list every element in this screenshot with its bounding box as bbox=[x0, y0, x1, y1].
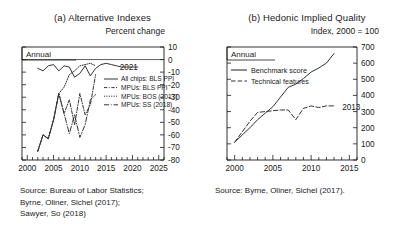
plot-annotation: 2021 bbox=[120, 63, 139, 72]
svg-text:2025: 2025 bbox=[150, 164, 169, 173]
svg-text:2000: 2000 bbox=[18, 164, 37, 173]
svg-text:0: 0 bbox=[361, 156, 366, 165]
svg-text:0: 0 bbox=[168, 56, 173, 65]
svg-text:2015: 2015 bbox=[340, 164, 359, 173]
source-line: Source: Bureau of Labor Statistics; bbox=[20, 185, 144, 197]
source-line: Byrne, Oliner, Sichel (2017); bbox=[20, 197, 144, 209]
plot-annotation: 2013 bbox=[342, 103, 361, 112]
series-line bbox=[38, 93, 96, 151]
svg-text:-70: -70 bbox=[168, 143, 180, 152]
source-line: Sawyer, So (2018) bbox=[20, 208, 144, 220]
svg-text:400: 400 bbox=[361, 91, 375, 100]
legend-label: MPUs: SS (2018) bbox=[121, 101, 172, 109]
svg-text:300: 300 bbox=[361, 108, 375, 117]
svg-text:2005: 2005 bbox=[44, 164, 63, 173]
svg-text:600: 600 bbox=[361, 59, 375, 68]
svg-text:2015: 2015 bbox=[97, 164, 116, 173]
series-line bbox=[38, 75, 96, 152]
svg-text:-50: -50 bbox=[168, 118, 180, 127]
panel-a-plot: 100-10-20-30-40-50-60-70-802000200520102… bbox=[0, 0, 205, 185]
svg-text:2010: 2010 bbox=[71, 164, 90, 173]
legend-label: MPUs: BLS PPI bbox=[121, 84, 168, 91]
svg-text:2000: 2000 bbox=[226, 164, 245, 173]
svg-text:2010: 2010 bbox=[302, 164, 321, 173]
legend-label: All chips: BLS PPI bbox=[121, 75, 174, 83]
source-line: Source: Byrne, Oliner, Sichel (2017). bbox=[215, 185, 345, 197]
svg-text:2020: 2020 bbox=[123, 164, 142, 173]
frequency-label: Annual bbox=[26, 50, 51, 59]
svg-text:-60: -60 bbox=[168, 131, 180, 140]
panel-a-source-note: Source: Bureau of Labor Statistics; Byrn… bbox=[20, 185, 144, 220]
svg-text:200: 200 bbox=[361, 124, 375, 133]
series-line bbox=[235, 106, 334, 142]
panel-b-plot: 0100200300400500600700200020052010201520… bbox=[205, 0, 409, 185]
panel-b-source-note: Source: Byrne, Oliner, Sichel (2017). bbox=[215, 185, 345, 197]
svg-text:700: 700 bbox=[361, 43, 375, 52]
frequency-label: Annual bbox=[231, 50, 256, 59]
figure-container: (a) Alternative Indexes Percent change 1… bbox=[0, 0, 409, 230]
legend-label: MPUs: BOS (2017) bbox=[121, 93, 177, 101]
svg-text:-80: -80 bbox=[168, 156, 180, 165]
svg-text:100: 100 bbox=[361, 140, 375, 149]
legend-label: Technical features bbox=[251, 77, 309, 86]
svg-text:500: 500 bbox=[361, 75, 375, 84]
panel-b-hedonic-implied-quality: (b) Hedonic Implied Quality Index, 2000 … bbox=[205, 0, 409, 230]
svg-text:10: 10 bbox=[168, 43, 178, 52]
panel-a-alternative-indexes: (a) Alternative Indexes Percent change 1… bbox=[0, 0, 205, 230]
legend-label: Benchmark score bbox=[251, 66, 307, 75]
svg-text:2005: 2005 bbox=[264, 164, 283, 173]
